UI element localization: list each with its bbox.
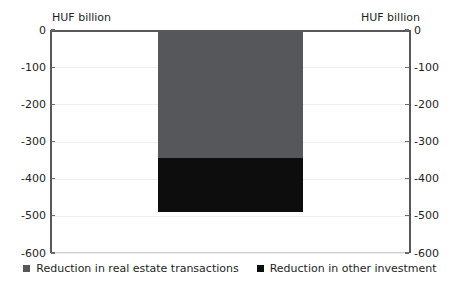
y-axis-tick-left xyxy=(51,141,55,142)
y-axis-tick-label-right: -500 xyxy=(414,210,460,221)
y-axis-tick-label-left: -100 xyxy=(0,62,46,73)
y-axis-tick-left xyxy=(51,104,55,105)
bar-segment[interactable] xyxy=(158,30,303,158)
gridline xyxy=(51,216,410,217)
y-axis-tick-label-left: -300 xyxy=(0,136,46,147)
y-axis-tick-right xyxy=(405,215,409,216)
y-axis-tick-right xyxy=(405,67,409,68)
y-axis-tick-left xyxy=(51,29,55,30)
y-axis-tick-label-right: -400 xyxy=(414,173,460,184)
y-axis-tick-right xyxy=(405,141,409,142)
plot-bottom-line xyxy=(51,252,410,253)
legend-label: Reduction in real estate transactions xyxy=(36,262,238,275)
legend-swatch-icon xyxy=(257,265,264,272)
y-axis-tick-left xyxy=(51,215,55,216)
chart-legend: Reduction in real estate transactionsRed… xyxy=(0,262,460,275)
y-axis-right xyxy=(409,30,411,253)
chart-container: HUF billion HUF billion 00-100-100-200-2… xyxy=(0,0,460,287)
y-axis-unit-caption-left: HUF billion xyxy=(52,11,111,24)
legend-item[interactable]: Reduction in other investment xyxy=(257,262,437,275)
y-axis-tick-label-left: -200 xyxy=(0,99,46,110)
y-axis-tick-label-left: 0 xyxy=(0,25,46,36)
y-axis-tick-right xyxy=(405,252,409,253)
y-axis-tick-label-left: -600 xyxy=(0,248,46,259)
y-axis-tick-label-right: -600 xyxy=(414,248,460,259)
y-axis-tick-left xyxy=(51,178,55,179)
y-axis-tick-left xyxy=(51,252,55,253)
y-axis-tick-right xyxy=(405,29,409,30)
y-axis-tick-label-right: 0 xyxy=(414,25,460,36)
y-axis-tick-label-right: -200 xyxy=(414,99,460,110)
y-axis-unit-caption-right: HUF billion xyxy=(338,11,420,24)
y-axis-tick-left xyxy=(51,67,55,68)
legend-item[interactable]: Reduction in real estate transactions xyxy=(23,262,238,275)
zero-baseline xyxy=(51,30,410,32)
y-axis-tick-right xyxy=(405,104,409,105)
y-axis-tick-label-right: -300 xyxy=(414,136,460,147)
y-axis-tick-label-right: -100 xyxy=(414,62,460,73)
y-axis-tick-label-left: -400 xyxy=(0,173,46,184)
y-axis-tick-label-left: -500 xyxy=(0,210,46,221)
legend-swatch-icon xyxy=(23,265,30,272)
y-axis-tick-right xyxy=(405,178,409,179)
bar-segment[interactable] xyxy=(158,158,303,212)
legend-label: Reduction in other investment xyxy=(270,262,437,275)
